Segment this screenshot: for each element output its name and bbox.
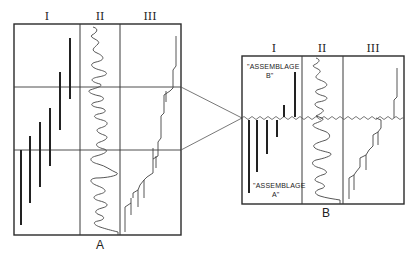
zoom-connector-lines: [181, 87, 242, 150]
panel-a-staircase: [125, 36, 176, 232]
connector-upper: [181, 87, 242, 118]
panel-a-range-bars: [21, 38, 70, 225]
assemblage-a-label-line2: A": [272, 191, 280, 198]
panel-b-column-i-header: I: [272, 42, 276, 55]
panel-b-oscillation-curve: [313, 58, 340, 204]
panel-b: I II III "ASSEMBLAGE B" "ASSEMBLAGE A": [242, 42, 404, 204]
panel-a-oscillation-curve: [89, 27, 118, 235]
panel-a-label: A: [96, 238, 104, 252]
panel-b-range-bars: [249, 72, 295, 193]
assemblage-b-label-line2: B": [266, 72, 274, 79]
panel-a-column-iii-header: III: [143, 10, 156, 23]
panel-a-column-ii-header: II: [96, 10, 105, 23]
stratigraphic-diagram: I II III I II III: [0, 0, 418, 257]
panel-a: I II III: [14, 10, 181, 235]
panel-b-column-iii-header: III: [366, 42, 379, 55]
assemblage-a-label-line1: "ASSEMBLAGE: [253, 182, 306, 189]
assemblage-b-label-line1: "ASSEMBLAGE: [247, 63, 300, 70]
panel-b-column-ii-header: II: [318, 42, 327, 55]
panel-b-label: B: [322, 206, 330, 220]
panel-a-column-i-header: I: [45, 10, 49, 23]
panel-b-staircase: [349, 68, 397, 199]
connector-lower: [181, 118, 242, 150]
